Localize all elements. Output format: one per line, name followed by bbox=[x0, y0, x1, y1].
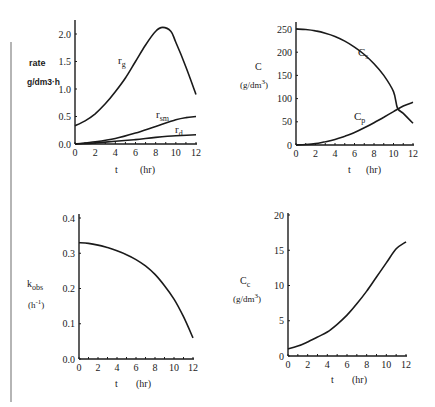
kobs-chart-series bbox=[79, 243, 193, 338]
x-tick-label: 4 bbox=[325, 359, 330, 370]
x-tick-label: 8 bbox=[364, 359, 369, 370]
y-tick-label: 0.3 bbox=[63, 248, 76, 259]
y-tick-label: 150 bbox=[277, 70, 292, 81]
cp-label: Cp bbox=[354, 110, 365, 125]
series-r-g-line bbox=[75, 27, 196, 125]
x-tick-label: 4 bbox=[115, 362, 120, 373]
cc-xlabel-t: t bbox=[331, 374, 334, 385]
x-tick-label: 12 bbox=[188, 362, 198, 373]
y-tick-label: 0.0 bbox=[63, 354, 76, 365]
conc-yunit: (g/dm3) bbox=[240, 78, 268, 90]
x-tick-label: 10 bbox=[381, 359, 391, 370]
cc-xlabel-unit: (hr) bbox=[352, 374, 367, 386]
y-tick-label: 0.5 bbox=[59, 111, 72, 122]
kobs-ylabel: kobs bbox=[27, 278, 43, 292]
x-tick-label: 10 bbox=[389, 148, 399, 159]
rsm-label: rsm bbox=[156, 108, 170, 123]
x-tick-label: 0 bbox=[77, 362, 82, 373]
rate-xlabel-t: t bbox=[115, 164, 118, 175]
y-tick-label: 0.0 bbox=[59, 139, 72, 150]
x-tick-label: 4 bbox=[113, 147, 118, 158]
y-tick-label: 1.0 bbox=[59, 84, 72, 95]
y-tick-label: 15 bbox=[274, 245, 284, 256]
x-tick-label: 2 bbox=[305, 359, 310, 370]
x-tick-label: 10 bbox=[171, 147, 181, 158]
x-tick-label: 6 bbox=[133, 147, 138, 158]
conc-ylabel: C bbox=[255, 61, 262, 72]
rg-label: rg bbox=[118, 54, 126, 69]
series-c-p-line bbox=[296, 102, 413, 145]
x-tick-label: 2 bbox=[96, 362, 101, 373]
kobs-chart: 0246810120.00.10.20.30.4 kobs (h-1) t (h… bbox=[27, 213, 198, 391]
y-tick-label: 50 bbox=[282, 116, 292, 127]
y-tick-label: 250 bbox=[277, 24, 292, 35]
x-tick-label: 12 bbox=[191, 147, 201, 158]
y-tick-label: 0.2 bbox=[63, 283, 76, 294]
kobs-chart-axes: 0246810120.00.10.20.30.4 bbox=[63, 213, 199, 374]
cc-yunit: (g/dm3) bbox=[233, 292, 261, 304]
x-tick-label: 4 bbox=[333, 148, 338, 159]
x-tick-label: 8 bbox=[153, 362, 158, 373]
x-tick-label: 0 bbox=[294, 148, 299, 159]
kobs-xlabel-unit: (hr) bbox=[136, 378, 151, 390]
x-tick-label: 6 bbox=[352, 148, 357, 159]
y-tick-label: 100 bbox=[277, 93, 292, 104]
cs-label: Cs bbox=[358, 46, 368, 61]
y-tick-label: 0.4 bbox=[63, 213, 76, 224]
x-tick-label: 2 bbox=[93, 147, 98, 158]
x-tick-label: 0 bbox=[73, 147, 78, 158]
rate-ylabel: rate bbox=[29, 58, 46, 68]
concentration-chart: 024681012050100150200250 C (g/dm3) t (hr… bbox=[240, 22, 418, 176]
x-tick-label: 0 bbox=[286, 359, 291, 370]
kobs-yunit: (h-1) bbox=[28, 298, 44, 310]
series-c-c-line bbox=[288, 242, 406, 349]
x-tick-label: 12 bbox=[401, 359, 411, 370]
x-tick-label: 6 bbox=[134, 362, 139, 373]
x-tick-label: 2 bbox=[313, 148, 318, 159]
conc-xlabel-unit: (hr) bbox=[366, 164, 381, 176]
figure-canvas: 0246810120.00.51.01.52.0 rate g/dm3·h t … bbox=[0, 0, 435, 407]
y-tick-label: 10 bbox=[274, 280, 284, 291]
rate-yunit: g/dm3·h bbox=[27, 77, 60, 87]
y-tick-label: 0.1 bbox=[63, 318, 76, 329]
cell-conc-chart: 02468101205101520 Cc (g/dm3) t (hr) bbox=[233, 210, 411, 387]
y-tick-label: 1.5 bbox=[59, 56, 72, 67]
y-tick-label: 200 bbox=[277, 47, 292, 58]
cc-ylabel: Cc bbox=[240, 275, 251, 289]
cell-conc-chart-series bbox=[288, 242, 406, 349]
x-tick-label: 10 bbox=[169, 362, 179, 373]
x-tick-label: 6 bbox=[345, 359, 350, 370]
x-tick-label: 8 bbox=[153, 147, 158, 158]
series-k-obs-line bbox=[79, 243, 193, 338]
cell-conc-chart-axes: 02468101205101520 bbox=[274, 210, 411, 371]
x-tick-label: 12 bbox=[408, 148, 418, 159]
y-tick-label: 20 bbox=[274, 210, 284, 221]
y-tick-label: 5 bbox=[279, 315, 284, 326]
rate-chart: 0246810120.00.51.01.52.0 rate g/dm3·h t … bbox=[27, 20, 201, 176]
conc-xlabel-t: t bbox=[348, 164, 351, 175]
y-tick-label: 2.0 bbox=[59, 29, 72, 40]
concentration-chart-series bbox=[296, 29, 413, 145]
x-tick-label: 8 bbox=[372, 148, 377, 159]
kobs-xlabel-t: t bbox=[115, 378, 118, 389]
rate-xlabel-unit: (hr) bbox=[140, 164, 155, 176]
y-tick-label: 0 bbox=[279, 351, 284, 362]
y-tick-label: 0 bbox=[287, 140, 292, 151]
